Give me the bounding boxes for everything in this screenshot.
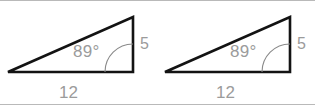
angle-arc-right (262, 44, 290, 72)
bottom-rule (0, 104, 315, 105)
vertical-leg-label-right: 5 (297, 36, 306, 52)
vertical-leg-label-left: 5 (140, 36, 149, 52)
figure-canvas: 89° 5 12 89° 5 12 (0, 0, 315, 105)
triangle-figure-right: 89° 5 12 (157, 0, 315, 105)
base-label-right: 12 (216, 84, 235, 101)
base-label-left: 12 (59, 84, 78, 101)
angle-label-left: 89° (73, 43, 100, 60)
triangle-outline-right (165, 17, 290, 72)
angle-arc-left (105, 44, 133, 72)
angle-label-right: 89° (230, 43, 257, 60)
triangle-figure-left: 89° 5 12 (0, 0, 158, 105)
triangle-outline-left (8, 17, 133, 72)
